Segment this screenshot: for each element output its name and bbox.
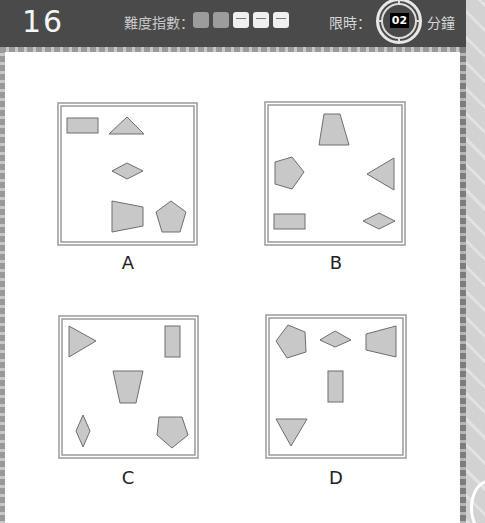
option-d-figure[interactable] [266,315,406,458]
pentagon-shape [275,157,304,189]
diamond-shape [76,415,90,447]
triangle-shape [276,419,307,446]
triangle-shape [109,117,144,134]
diamond-shape [363,213,395,229]
option-label-d[interactable]: D [321,467,351,488]
pentagon-shape [276,325,306,358]
triangle-shape [367,158,394,190]
pentagon-shape [157,417,188,448]
rectangle-shape [328,371,343,402]
option-label-b[interactable]: B [321,252,351,273]
trapezoid-shape [113,371,143,403]
rectangle-shape [274,214,305,229]
pentagon-shape [156,201,186,232]
diamond-shape [320,331,351,347]
trapezoid-shape [112,201,143,232]
trapezoid-shape [319,114,349,145]
diamond-shape [112,163,143,179]
triangle-shape [69,326,96,357]
figure-options [0,0,485,523]
rectangle-shape [165,326,180,357]
rectangle-shape [67,118,98,133]
option-a-figure[interactable] [58,103,197,245]
option-c-figure[interactable] [59,316,198,458]
option-b-figure[interactable] [265,102,405,245]
option-label-c[interactable]: C [113,467,143,488]
option-label-a[interactable]: A [113,252,143,273]
trapezoid-shape [366,326,396,357]
